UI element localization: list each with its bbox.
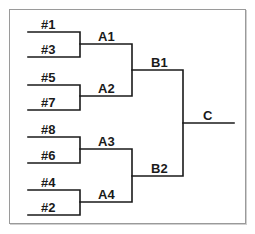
- round2-label: A1: [98, 30, 115, 43]
- seed-label: #7: [41, 96, 55, 109]
- round2-label: A4: [98, 188, 115, 201]
- final-winner-label: C: [203, 109, 212, 122]
- round3-label: B1: [151, 56, 168, 69]
- seed-label: #4: [41, 176, 55, 189]
- round2-label: A3: [98, 135, 115, 148]
- seed-label: #2: [41, 201, 55, 214]
- bracket-lines: [0, 0, 255, 234]
- seed-label: #5: [41, 71, 55, 84]
- seed-label: #6: [41, 149, 55, 162]
- round2-label: A2: [98, 82, 115, 95]
- seed-label: #1: [41, 18, 55, 31]
- seed-label: #8: [41, 123, 55, 136]
- round3-label: B2: [151, 162, 168, 175]
- seed-label: #3: [41, 43, 55, 56]
